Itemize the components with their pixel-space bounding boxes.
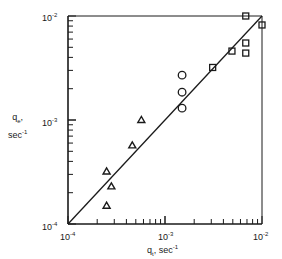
triangle-marker [138, 117, 145, 123]
y-tick-1e-3: 10-3 [42, 115, 57, 128]
y-tick-1e-4: 10-4 [42, 219, 57, 232]
x-axis-title: qt, sec-1 [147, 242, 178, 259]
triangle-marker [108, 183, 115, 189]
x-tick-1e-2: 10-2 [253, 229, 268, 242]
circle-marker [178, 104, 186, 112]
triangle-marker [129, 142, 136, 148]
reference-line-y-equals-x [68, 16, 262, 224]
x-tick-1e-3: 10-3 [158, 229, 173, 242]
x-tick-1e-4: 10-4 [60, 229, 75, 242]
square-marker [243, 50, 249, 56]
triangle-marker [103, 168, 110, 174]
square-marker [243, 40, 249, 46]
y-axis-title: qe, sec-1 [8, 112, 27, 141]
triangle-marker [103, 202, 110, 208]
circle-marker [178, 88, 186, 96]
y-tick-1e-2: 10-2 [42, 10, 57, 23]
circle-marker [178, 71, 186, 79]
